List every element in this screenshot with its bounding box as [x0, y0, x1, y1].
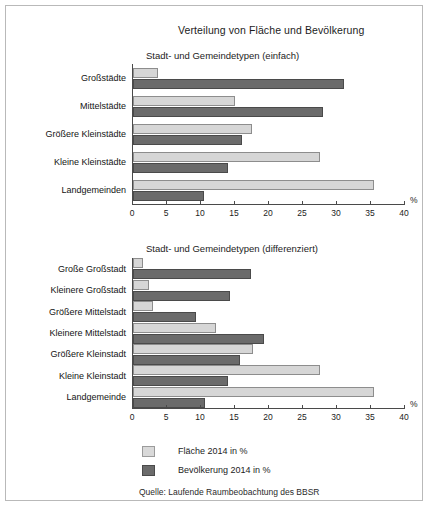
- bar-flaeche: [133, 387, 374, 397]
- bar-bevoelkerung: [133, 312, 196, 322]
- bar-bevoelkerung: [133, 334, 264, 344]
- x-axis-tick-label: 15: [229, 208, 238, 218]
- bar-bevoelkerung: [133, 376, 228, 386]
- category-label: Kleine Kleinstädte: [54, 157, 126, 167]
- x-axis-tick: [268, 405, 269, 409]
- x-axis-unit-label: %: [410, 195, 418, 205]
- bar-chart-differentiated: Große GroßstadtKleinere GroßstadtGrößere…: [6, 258, 424, 426]
- category-label: Größere Kleinstädte: [45, 129, 126, 139]
- x-axis-tick-label: 20: [263, 208, 272, 218]
- x-axis-unit-label: %: [410, 399, 418, 409]
- x-axis-tick-label: 15: [229, 412, 238, 422]
- bar-flaeche: [133, 152, 320, 162]
- bar-flaeche: [133, 180, 374, 190]
- legend-swatch-flaeche: [142, 446, 155, 457]
- x-axis-tick-label: 10: [195, 412, 204, 422]
- bar-bevoelkerung: [133, 269, 251, 279]
- figure-frame: Verteilung von Fläche und Bevölkerung St…: [5, 5, 423, 501]
- bar-bevoelkerung: [133, 79, 344, 89]
- bar-bevoelkerung: [133, 291, 230, 301]
- x-axis-tick: [166, 405, 167, 409]
- x-axis-tick: [302, 201, 303, 205]
- bar-flaeche: [133, 124, 252, 134]
- x-axis-tick-label: 5: [164, 208, 169, 218]
- x-axis-tick: [200, 201, 201, 205]
- bar-chart-simple: GroßstädteMittelstädteGrößere Kleinstädt…: [6, 64, 424, 222]
- bar-flaeche: [133, 365, 320, 375]
- legend-label: Bevölkerung 2014 in %: [178, 465, 271, 475]
- category-label: Größere Kleinstadt: [50, 349, 126, 359]
- category-label: Kleinere Großstadt: [50, 285, 126, 295]
- x-axis-tick: [336, 405, 337, 409]
- x-axis-tick: [234, 201, 235, 205]
- category-label: Großstädte: [81, 73, 126, 83]
- x-axis-tick-label: 25: [297, 208, 306, 218]
- category-label: Kleinere Mittelstadt: [49, 328, 126, 338]
- category-label: Landgemeinden: [61, 185, 126, 195]
- x-axis-tick-label: 40: [399, 412, 408, 422]
- bar-flaeche: [133, 323, 216, 333]
- x-axis-tick: [166, 201, 167, 205]
- chart-1-plot-area: 0510152025303540%: [132, 64, 404, 222]
- legend-label: Fläche 2014 in %: [178, 446, 248, 456]
- x-axis-tick-label: 35: [365, 412, 374, 422]
- x-axis-tick: [268, 201, 269, 205]
- chart-2-subtitle: Stadt- und Gemeindetypen (differenziert): [146, 243, 318, 254]
- bar-flaeche: [133, 280, 149, 290]
- x-axis-tick: [132, 405, 133, 409]
- x-axis-tick: [200, 405, 201, 409]
- bar-bevoelkerung: [133, 398, 205, 408]
- x-axis-tick-label: 10: [195, 208, 204, 218]
- x-axis-tick-label: 25: [297, 412, 306, 422]
- bar-flaeche: [133, 344, 253, 354]
- x-axis-tick: [132, 201, 133, 205]
- x-axis-tick-label: 35: [365, 208, 374, 218]
- category-label: Kleine Kleinstadt: [59, 371, 126, 381]
- x-axis-tick: [370, 405, 371, 409]
- chart-1-bars: [132, 64, 404, 204]
- x-axis-tick: [370, 201, 371, 205]
- legend-swatch-bevoelkerung: [142, 465, 155, 476]
- x-axis-tick-label: 0: [130, 208, 135, 218]
- x-axis-tick-label: 0: [130, 412, 135, 422]
- bar-flaeche: [133, 301, 153, 311]
- x-axis-tick: [302, 405, 303, 409]
- figure-title: Verteilung von Fläche und Bevölkerung: [178, 24, 364, 36]
- x-axis-tick-label: 5: [164, 412, 169, 422]
- x-axis-tick: [404, 201, 405, 205]
- chart-2-plot-area: 0510152025303540%: [132, 258, 404, 426]
- bar-bevoelkerung: [133, 163, 228, 173]
- x-axis-tick: [404, 405, 405, 409]
- source-note: Quelle: Laufende Raumbeobachtung des BBS…: [139, 487, 320, 497]
- x-axis-tick: [234, 405, 235, 409]
- x-axis-tick-label: 30: [331, 412, 340, 422]
- x-axis-tick-label: 30: [331, 208, 340, 218]
- chart-2-category-labels: Große GroßstadtKleinere GroßstadtGrößere…: [6, 258, 132, 426]
- bar-bevoelkerung: [133, 107, 323, 117]
- category-label: Landgemeinde: [66, 392, 126, 402]
- chart-1-subtitle: Stadt- und Gemeindetypen (einfach): [146, 50, 299, 61]
- bar-bevoelkerung: [133, 191, 204, 201]
- bar-bevoelkerung: [133, 355, 240, 365]
- x-axis-tick-label: 40: [399, 208, 408, 218]
- bar-flaeche: [133, 96, 235, 106]
- chart-1-category-labels: GroßstädteMittelstädteGrößere Kleinstädt…: [6, 64, 132, 222]
- category-label: Große Großstadt: [58, 264, 126, 274]
- category-label: Größere Mittelstadt: [49, 307, 126, 317]
- category-label: Mittelstädte: [80, 101, 126, 111]
- bar-flaeche: [133, 258, 143, 268]
- bar-bevoelkerung: [133, 135, 242, 145]
- bar-flaeche: [133, 68, 158, 78]
- x-axis-tick-label: 20: [263, 412, 272, 422]
- x-axis-tick: [336, 201, 337, 205]
- chart-2-bars: [132, 258, 404, 408]
